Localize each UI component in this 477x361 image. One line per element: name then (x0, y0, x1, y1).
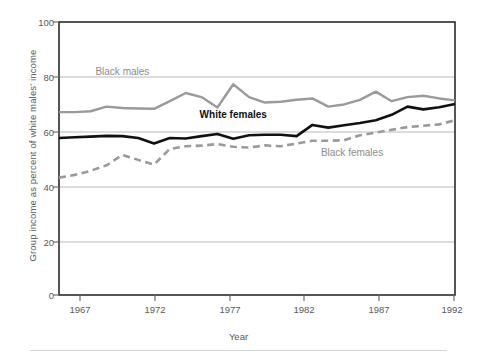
x-tick-1972: 1972 (132, 304, 178, 315)
series-label-white-females: White females (200, 109, 267, 120)
x-tick-1992: 1992 (429, 304, 475, 315)
x-tick-1987: 1987 (356, 304, 402, 315)
series-label-black-males: Black males (95, 66, 149, 77)
x-axis-title: Year (0, 331, 477, 342)
x-axis-ticks: 1967 1972 1977 1982 1987 1992 (0, 0, 477, 361)
x-tick-1982: 1982 (281, 304, 327, 315)
x-tick-1977: 1977 (207, 304, 253, 315)
footer-divider (30, 350, 447, 351)
x-tick-1967: 1967 (57, 304, 103, 315)
chart-figure: Group income as percent of white males' … (0, 0, 477, 361)
series-label-black-females: Black females (321, 147, 383, 158)
